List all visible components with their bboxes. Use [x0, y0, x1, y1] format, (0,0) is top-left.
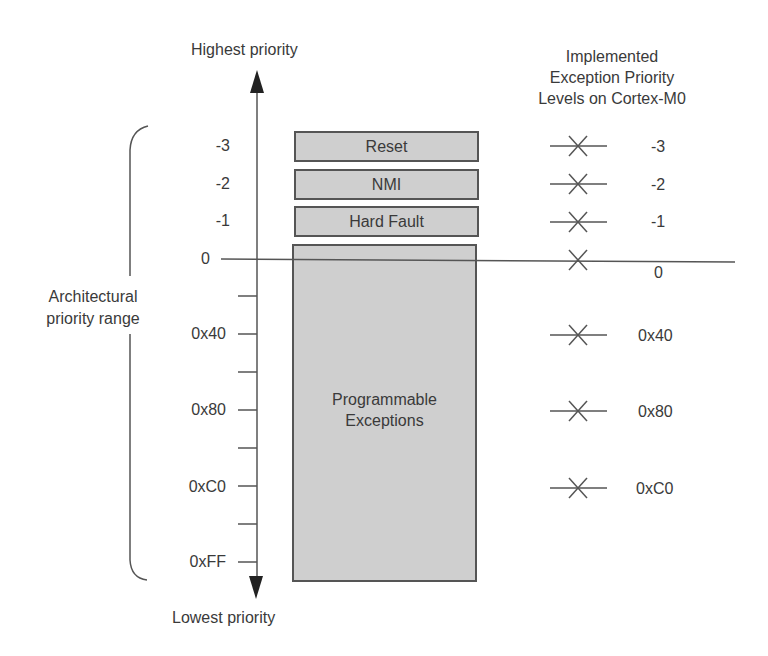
hard-fault-box: Hard Fault — [294, 206, 479, 237]
axis-label-0xC0: 0xC0 — [170, 479, 226, 495]
programmable-exceptions-box: Programmable Exceptions — [292, 244, 477, 582]
up-arrow-icon — [250, 70, 264, 93]
lowest-priority-label: Lowest priority — [172, 610, 275, 626]
impl-label-0: 0 — [654, 265, 663, 281]
axis-label-0x80: 0x80 — [170, 402, 226, 418]
programmable-exceptions-label: Programmable Exceptions — [332, 390, 437, 432]
architectural-range-label: Architectural priority range — [30, 286, 156, 330]
highest-priority-label: Highest priority — [191, 42, 298, 58]
axis-label-minus3: -3 — [180, 138, 230, 154]
bracket-bottom — [130, 334, 147, 580]
hard-fault-label: Hard Fault — [349, 213, 424, 231]
down-arrow-icon — [249, 576, 263, 599]
axis-label-0: 0 — [160, 251, 210, 267]
reset-box: Reset — [294, 131, 479, 162]
impl-label-0x80: 0x80 — [638, 404, 673, 420]
nmi-box: NMI — [294, 169, 479, 200]
axis-ticks — [238, 296, 257, 562]
impl-label-minus1: -1 — [651, 214, 665, 230]
axis-label-0xFF: 0xFF — [170, 554, 226, 570]
bracket-top — [130, 126, 148, 276]
impl-label-minus2: -2 — [651, 177, 665, 193]
priority-diagram: Reset NMI Hard Fault Programmable Except… — [0, 0, 768, 656]
reset-label: Reset — [366, 138, 408, 156]
implemented-levels-title: Implemented Exception Priority Levels on… — [508, 46, 716, 109]
impl-label-0x40: 0x40 — [638, 328, 673, 344]
nmi-label: NMI — [372, 176, 401, 194]
axis-label-minus1: -1 — [180, 213, 230, 229]
implemented-markers — [550, 136, 607, 498]
axis-label-0x40: 0x40 — [170, 326, 226, 342]
impl-label-0xC0: 0xC0 — [636, 481, 673, 497]
axis-label-minus2: -2 — [180, 176, 230, 192]
impl-label-minus3: -3 — [651, 139, 665, 155]
